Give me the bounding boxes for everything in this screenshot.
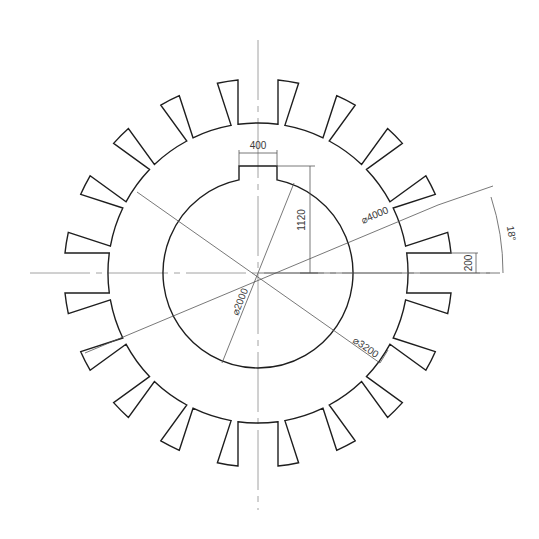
technical-drawing: 400 1120 200 18° ⌀4000 ⌀2000 ⌀3200 (0, 0, 539, 539)
root-dim-tick (380, 350, 388, 363)
tooth-angle-label: 18° (505, 225, 518, 242)
root-diameter-line (137, 192, 380, 363)
root-diameter-label: ⌀3200 (351, 335, 381, 360)
angle-ext-line (438, 186, 493, 205)
keyway-height-label: 1120 (296, 209, 307, 231)
outer-diameter-label: ⌀4000 (359, 204, 390, 225)
keyway-width-label: 400 (250, 140, 267, 151)
slot-half-width-label: 200 (463, 254, 474, 271)
angle-arc (491, 197, 503, 273)
outer-diameter-line (85, 205, 438, 353)
